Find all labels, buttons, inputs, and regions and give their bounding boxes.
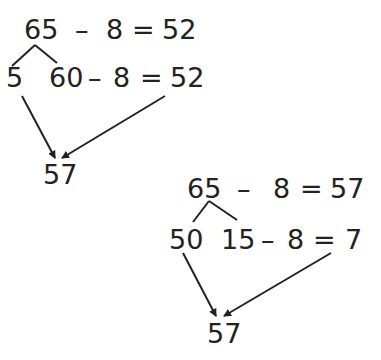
b-final: 57 — [207, 320, 241, 347]
a-equals: = — [132, 16, 155, 43]
a-split-right: 60 — [49, 64, 83, 91]
b-sub-equals: = — [313, 226, 336, 253]
b-equals: = — [300, 175, 323, 202]
a-subtrahend: 8 — [106, 16, 123, 43]
b-sub-operator: – — [261, 226, 275, 253]
a-sub-result: 52 — [170, 64, 204, 91]
b-sub-result: 7 — [345, 226, 362, 253]
b-sub-subtrahend: 8 — [287, 226, 304, 253]
a-sub-subtrahend: 8 — [113, 64, 130, 91]
b-subtrahend: 8 — [273, 175, 290, 202]
arrows-b — [183, 253, 331, 316]
a-sub-equals: = — [140, 64, 163, 91]
a-sub-operator: – — [88, 64, 102, 91]
a-split-left: 5 — [6, 64, 23, 91]
b-split-left: 50 — [169, 226, 203, 253]
arrows-a — [22, 96, 165, 158]
a-result: 52 — [162, 16, 196, 43]
a-minuend: 65 — [24, 16, 58, 43]
branch-lines-b — [193, 201, 237, 222]
b-split-right: 15 — [221, 226, 255, 253]
b-minuend: 65 — [187, 175, 221, 202]
a-operator: – — [75, 16, 89, 43]
a-final: 57 — [43, 161, 77, 188]
b-operator: – — [237, 175, 251, 202]
b-result: 57 — [330, 175, 364, 202]
